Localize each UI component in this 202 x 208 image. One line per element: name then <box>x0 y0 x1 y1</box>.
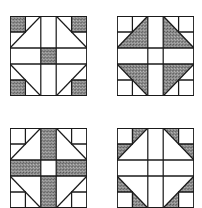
quilt-block-3 <box>10 128 87 208</box>
quilt-block-1 <box>10 16 87 96</box>
quilt-block-2 <box>117 16 194 96</box>
quilt-block-4 <box>117 128 194 208</box>
